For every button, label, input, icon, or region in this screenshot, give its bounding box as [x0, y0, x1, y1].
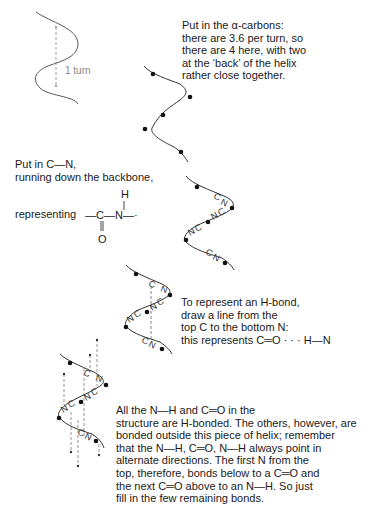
svg-text:N: N	[159, 283, 169, 295]
svg-text:C: C	[132, 308, 143, 320]
caption-line: there are 4 here, with two	[182, 44, 306, 57]
svg-text:N: N	[211, 252, 221, 264]
caption-line: bonded outside this piece of helix; reme…	[116, 429, 357, 442]
svg-text:N: N	[94, 372, 104, 384]
caption-line: Put in C—N,	[15, 158, 153, 171]
step1-caption: Put in the α-carbons: there are 3.6 per …	[182, 19, 306, 82]
caption-line: there are 3.6 per turn, so	[182, 32, 306, 45]
caption-line: that the N—H, C═O, N—H always point in	[116, 442, 357, 455]
caption-line: running down the backbone,	[15, 171, 153, 184]
caption-line: top, therefore, bonds below to a C═O and	[116, 467, 357, 480]
svg-text:O: O	[98, 233, 107, 245]
caption-line: Put in the α-carbons:	[182, 19, 306, 32]
svg-text:C: C	[147, 278, 157, 290]
svg-text:H: H	[121, 188, 129, 200]
caption-line: To represent an H-bond,	[181, 296, 331, 309]
svg-text:—C—N—·: —C—N—·	[85, 209, 138, 221]
caption-line: structure are H-bonded. The others, howe…	[116, 417, 357, 430]
caption-line: this represents C═O · · · H—N	[181, 334, 331, 347]
one-turn-label: 1 turn	[65, 65, 91, 76]
caption-line: All the N—H and C═O in the	[116, 404, 357, 417]
caption-line: fill in the few remaining bonds.	[116, 492, 357, 505]
cn-backbone-helix: C N N C N C C N	[184, 176, 235, 270]
peptide-formula: —C—N—· H O	[85, 188, 138, 245]
step2-caption: Put in C—N, running down the backbone,	[15, 158, 153, 183]
caption-line: draw a line from the	[181, 309, 331, 322]
caption-line: alternate directions. The first N from t…	[116, 454, 357, 467]
step3-caption: To represent an H-bond, draw a line from…	[181, 296, 331, 346]
full-h-bond-helix: C N N C N C C N	[57, 339, 109, 467]
caption-line: top C to the bottom N:	[181, 321, 331, 334]
plain-helix-icon: 1 turn	[35, 12, 90, 104]
caption-line: the next C═O above to an N—H. So just	[116, 480, 357, 493]
h-bond-helix: C N N C N C C N	[124, 265, 173, 354]
caption-line: rather close together.	[182, 69, 306, 82]
step4-caption: All the N—H and C═O in the structure are…	[116, 404, 357, 505]
representing-label: representing	[15, 208, 76, 221]
svg-text:C: C	[155, 296, 166, 308]
caption-line: at the ‘back’ of the helix	[182, 57, 306, 70]
